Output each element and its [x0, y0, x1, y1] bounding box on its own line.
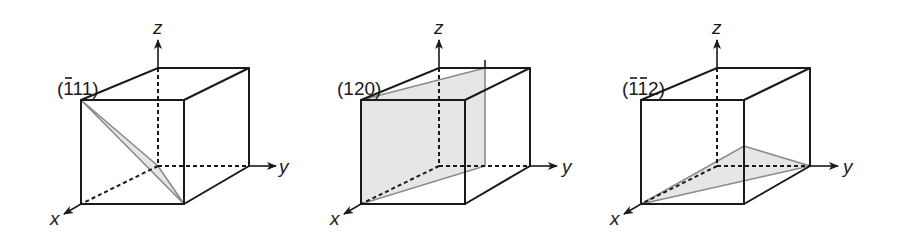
- x-axis-arrow: [64, 204, 81, 214]
- x-axis-label: x: [329, 208, 341, 229]
- panel-3-cube: z y x (112): [609, 17, 854, 229]
- y-axis-label: y: [841, 156, 854, 177]
- x-axis-label: x: [609, 208, 621, 229]
- panel-1-cube: z y x (111): [49, 17, 290, 229]
- panel-2-cube: z y x (120): [329, 17, 573, 229]
- z-axis-label: z: [152, 17, 163, 38]
- miller-planes-figure: z y x (111) z y x (120): [0, 0, 899, 235]
- miller-label-2: (120): [337, 78, 381, 99]
- miller-label-1: (111): [57, 78, 99, 99]
- y-axis-label: y: [277, 156, 290, 177]
- plane-1-shaded: [81, 100, 184, 204]
- miller-label-3: (112): [622, 78, 665, 99]
- y-axis-label: y: [560, 156, 573, 177]
- z-axis-label: z: [711, 17, 722, 38]
- x-axis-label: x: [49, 208, 61, 229]
- x-axis-arrow: [344, 204, 361, 214]
- x-axis-arrow: [624, 204, 641, 214]
- plane-3-shaded: [641, 146, 810, 204]
- z-axis-label: z: [433, 17, 444, 38]
